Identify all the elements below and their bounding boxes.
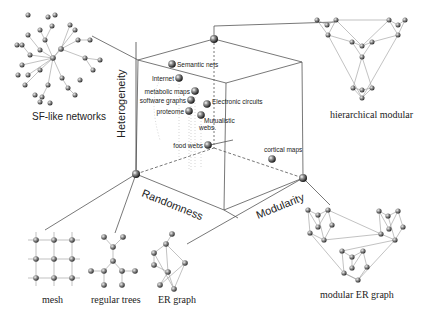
network-point-label: Internet	[152, 75, 174, 82]
network-point	[185, 107, 193, 115]
sf-like-label: SF-like networks	[32, 111, 106, 122]
modular-er-graph-inset	[308, 210, 403, 280]
er-graph-inset	[154, 234, 185, 289]
network-point-label: Mutualisticwebs.	[198, 117, 235, 131]
network-point-label: proteome	[157, 108, 185, 116]
network-point-label: metabolic maps	[144, 88, 190, 96]
axis-randomness: Randomness	[140, 187, 205, 223]
sf-like-network-inset	[22, 25, 100, 97]
network-point-label: cortical maps	[264, 146, 303, 154]
regular-trees-label: regular trees	[91, 294, 141, 305]
network-point	[268, 155, 276, 163]
network-point	[187, 96, 195, 104]
complexity-space-diagram: Heterogeneity Randomness Modularity Sema…	[0, 0, 425, 317]
network-point-label: Semantic nets	[177, 61, 219, 68]
network-point-label: software graphs	[140, 97, 187, 105]
axis-modularity: Modularity	[254, 191, 306, 221]
modular-er-graph-label: modular ER graph	[320, 289, 394, 300]
network-point	[204, 141, 212, 149]
network-point	[191, 87, 199, 95]
network-points: Semantic netsInternetmetabolic mapssoftw…	[140, 60, 303, 163]
network-point-label: food webs	[173, 142, 203, 149]
cube	[136, 39, 303, 218]
network-point-label: Electronic circuits	[212, 98, 263, 105]
hierarchical-modular-label: hierarchical modular	[330, 109, 414, 120]
mesh-label: mesh	[42, 294, 63, 305]
network-point	[203, 100, 211, 108]
network-point	[168, 60, 176, 68]
er-graph-label: ER graph	[158, 294, 196, 305]
network-point	[175, 74, 183, 82]
axis-heterogeneity: Heterogeneity	[115, 69, 127, 138]
